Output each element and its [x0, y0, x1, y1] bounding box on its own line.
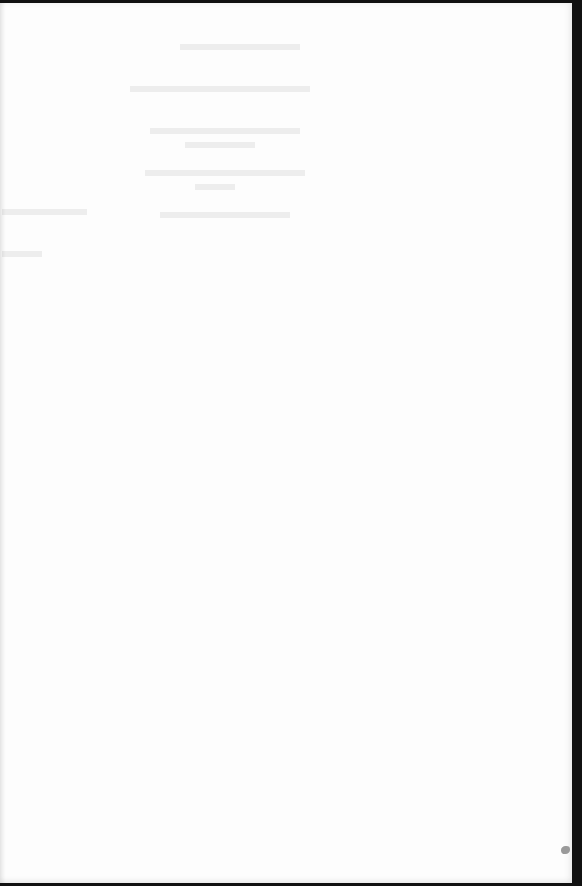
page-edge-shadow — [0, 3, 6, 883]
show-through-block-middle — [185, 111, 255, 221]
show-through-block-left — [2, 178, 87, 288]
scan-blot — [561, 846, 570, 854]
scanned-page — [0, 3, 572, 883]
